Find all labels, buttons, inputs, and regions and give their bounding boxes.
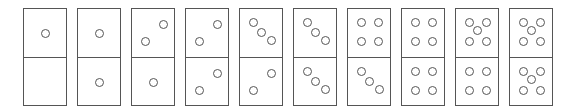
domino-half-bottom (132, 57, 174, 106)
pip-icon (411, 86, 420, 95)
pip-icon (357, 18, 366, 27)
pip-icon (428, 67, 437, 76)
pip-icon (519, 18, 528, 27)
pip-icon (482, 37, 491, 46)
domino-half-top (348, 9, 390, 57)
pip-icon (411, 67, 420, 76)
pip-icon (195, 86, 204, 95)
domino-half-top (132, 9, 174, 57)
domino-half-top (24, 9, 66, 57)
pip-icon (321, 36, 330, 45)
pip-icon (374, 37, 383, 46)
pip-icon (536, 18, 545, 27)
domino-2-2 (185, 8, 229, 106)
pip-icon (375, 85, 384, 94)
pip-icon (411, 18, 420, 27)
pip-icon (159, 20, 168, 29)
pip-icon (411, 37, 420, 46)
pip-icon (149, 78, 158, 87)
pip-icon (465, 67, 474, 76)
pip-icon (311, 28, 320, 37)
pip-icon (428, 37, 437, 46)
domino-half-bottom (402, 57, 444, 106)
domino-2-1 (131, 8, 175, 106)
domino-3-2 (239, 8, 283, 106)
pip-icon (365, 77, 374, 86)
pip-icon (213, 20, 222, 29)
domino-half-top (240, 9, 282, 57)
pip-icon (303, 18, 312, 27)
domino-half-top (186, 9, 228, 57)
domino-half-bottom (78, 57, 120, 106)
domino-half-bottom (294, 57, 336, 106)
domino-1-1 (77, 8, 121, 106)
pip-icon (321, 85, 330, 94)
pip-icon (519, 67, 528, 76)
domino-half-bottom (24, 57, 66, 106)
domino-half-bottom (240, 57, 282, 106)
domino-half-bottom (456, 57, 498, 106)
domino-4-3 (347, 8, 391, 106)
pip-icon (482, 86, 491, 95)
pip-icon (267, 69, 276, 78)
domino-3-3 (293, 8, 337, 106)
domino-half-bottom (510, 57, 552, 106)
pip-icon (374, 18, 383, 27)
domino-5-5 (509, 8, 553, 106)
pip-icon (428, 86, 437, 95)
pip-icon (536, 67, 545, 76)
pip-icon (311, 77, 320, 86)
pip-icon (519, 86, 528, 95)
pip-icon (465, 86, 474, 95)
pip-icon (357, 67, 366, 76)
domino-half-bottom (348, 57, 390, 106)
pip-icon (249, 18, 258, 27)
domino-half-top (456, 9, 498, 57)
domino-5-4 (455, 8, 499, 106)
pip-icon (527, 26, 536, 35)
pip-icon (428, 18, 437, 27)
pip-icon (95, 78, 104, 87)
domino-half-top (78, 9, 120, 57)
domino-half-top (294, 9, 336, 57)
pip-icon (465, 18, 474, 27)
pip-icon (267, 36, 276, 45)
pip-icon (141, 37, 150, 46)
pip-icon (195, 37, 204, 46)
pip-icon (213, 69, 222, 78)
pip-icon (519, 37, 528, 46)
domino-half-top (402, 9, 444, 57)
domino-half-top (510, 9, 552, 57)
domino-half-bottom (186, 57, 228, 106)
pip-icon (473, 26, 482, 35)
pip-icon (465, 37, 474, 46)
pip-icon (249, 86, 258, 95)
pip-icon (536, 37, 545, 46)
pip-icon (95, 29, 104, 38)
pip-icon (536, 86, 545, 95)
pip-icon (482, 67, 491, 76)
domino-4-4 (401, 8, 445, 106)
pip-icon (527, 75, 536, 84)
pip-icon (303, 67, 312, 76)
pip-icon (257, 28, 266, 37)
domino-1-0 (23, 8, 67, 106)
pip-icon (357, 37, 366, 46)
pip-icon (482, 18, 491, 27)
pip-icon (41, 29, 50, 38)
